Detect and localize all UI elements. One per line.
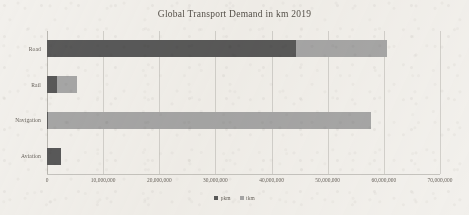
x-tick-label-20000000: 20,000,000 xyxy=(147,177,172,183)
legend-entry-pkm[interactable]: pkm xyxy=(214,195,230,201)
bar-segment-road-pkm[interactable] xyxy=(47,40,296,57)
x-tick-label-50000000: 50,000,000 xyxy=(315,177,340,183)
category-label-road: Road xyxy=(29,46,41,52)
bar-row[interactable]: Navigation xyxy=(47,112,440,129)
x-tick-label-10000000: 10,000,000 xyxy=(91,177,116,183)
legend-entry-tkm[interactable]: tkm xyxy=(240,195,255,201)
bar-segment-aviation-pkm[interactable] xyxy=(47,148,61,165)
legend-swatch-tkm xyxy=(240,196,244,200)
legend-label-tkm: tkm xyxy=(246,195,255,201)
bar-segment-road-tkm[interactable] xyxy=(296,40,388,57)
bar-segment-rail-tkm[interactable] xyxy=(57,76,77,93)
chart-figure: Global Transport Demand in km 2019 RoadR… xyxy=(0,0,469,215)
legend-label-pkm: pkm xyxy=(221,195,231,201)
category-label-navigation: Navigation xyxy=(15,117,41,123)
bar-segment-navigation-tkm[interactable] xyxy=(48,112,371,129)
legend-swatch-pkm xyxy=(214,196,218,200)
bar-segment-rail-pkm[interactable] xyxy=(47,76,57,93)
chart-title: Global Transport Demand in km 2019 xyxy=(0,9,469,19)
x-tick-label-0: 0 xyxy=(46,177,49,183)
chart-legend: pkmtkm xyxy=(0,195,469,201)
category-label-aviation: Aviation xyxy=(21,153,41,159)
bar-row[interactable]: Rail xyxy=(47,76,440,93)
bar-row[interactable]: Road xyxy=(47,40,440,57)
category-label-rail: Rail xyxy=(31,82,41,88)
x-tick-label-30000000: 30,000,000 xyxy=(203,177,228,183)
x-tick-label-40000000: 40,000,000 xyxy=(259,177,284,183)
gridline-70000000 xyxy=(440,31,441,174)
x-axis-baseline xyxy=(47,174,440,175)
x-tick-label-60000000: 60,000,000 xyxy=(371,177,396,183)
plot-area: RoadRailNavigationAviation xyxy=(47,31,440,174)
bar-row[interactable]: Aviation xyxy=(47,148,440,165)
x-tick-label-70000000: 70,000,000 xyxy=(428,177,453,183)
